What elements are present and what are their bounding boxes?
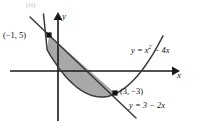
line-curve	[30, 17, 136, 118]
intersection-marker-left	[46, 32, 51, 37]
line-equation-label: y = 3 − 2x	[129, 100, 165, 110]
x-axis	[10, 67, 180, 76]
point-label-left: (−1, 5)	[3, 30, 26, 40]
point-label-right: (3, −3)	[120, 86, 143, 96]
y-axis-label: y	[62, 11, 66, 21]
parabola-equation-base: y = x	[131, 45, 149, 55]
intersection-marker-right	[112, 90, 117, 95]
figure-number-label: (ii)	[26, 1, 36, 9]
x-axis-label: x	[177, 70, 181, 80]
parabola-equation-tail: − 4x	[152, 45, 170, 55]
graph-figure: (ii) y x (−1, 5) (3, −3) y = x2 − 4x y =…	[0, 0, 199, 124]
plot-canvas	[0, 0, 199, 124]
parabola-equation-label: y = x2 − 4x	[131, 45, 170, 55]
